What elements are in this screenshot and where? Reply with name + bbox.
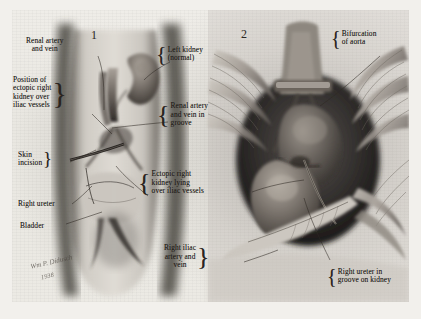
label-skin-incision: Skin incision } [18,150,52,168]
label-renal-artery-and-vein-in-groove: { Renal artery and vein in groove [157,102,208,128]
label-skin-incision-text: Skin incision [18,151,42,168]
brace-left-icon: { [327,266,337,286]
brace-left-icon: { [331,28,341,48]
label-right-iliac-artery-and-vein: Right iliac artery and vein } [164,244,210,270]
brace-right-icon: } [52,78,67,108]
paper-sheet: 1 2 Renal artery and vein Position of ec… [12,10,409,302]
label-left-kidney-normal: { Left kidney (normal) [156,43,203,65]
panel-number-1: 1 [91,28,97,43]
label-left-kidney-normal-text: Left kidney (normal) [168,46,203,63]
label-bladder: Bladder [20,222,44,230]
label-position-of-ectopic-right-kidney: Position of ectopic right kidney over il… [13,76,67,110]
label-right-ureter-in-groove-on-kidney-text: Right ureter in groove on kidney [338,268,391,285]
label-right-ureter-in-groove-on-kidney: { Right ureter in groove on kidney [327,266,391,286]
brace-right-icon: } [197,244,210,270]
panel-two-art [208,10,409,302]
brace-right-icon: } [43,150,52,168]
label-ectopic-right-kidney-lying-text: Ectopic right kidney lying over iliac ve… [152,170,204,195]
label-ectopic-right-kidney-lying: { Ectopic right kidney lying over iliac … [138,170,204,196]
label-renal-artery-and-vein-in-groove-text: Renal artery and vein in groove [171,102,209,127]
label-position-of-ectopic-right-kidney-text: Position of ectopic right kidney over il… [13,76,51,110]
label-renal-artery-and-vein-text: Renal artery and vein [26,37,64,54]
label-right-iliac-artery-and-vein-text: Right iliac artery and vein [164,244,196,269]
panel-number-2: 2 [241,27,247,42]
illustration-plate: 1 2 Renal artery and vein Position of ec… [0,0,421,319]
brace-left-icon: { [156,43,167,65]
brace-left-icon: { [138,170,151,196]
label-bifurcation-of-aorta: { Bifurcation of aorta [331,28,376,48]
label-renal-artery-and-vein: Renal artery and vein [26,37,64,54]
brace-left-icon: { [157,102,170,128]
label-right-ureter: Right ureter [18,200,55,208]
label-bifurcation-of-aorta-text: Bifurcation of aorta [342,30,377,47]
